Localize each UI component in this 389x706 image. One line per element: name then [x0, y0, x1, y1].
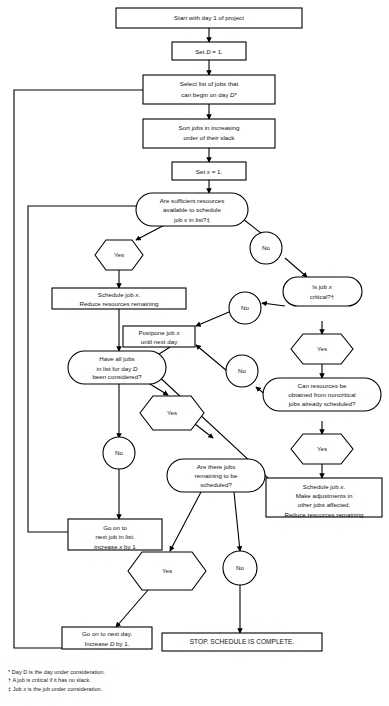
node-no-any-jobs[interactable]: No	[223, 551, 257, 585]
node-can-resources-line2: obtained from noncritical	[288, 391, 355, 398]
node-no-any-jobs-label: No	[236, 564, 244, 571]
node-have-all-jobs[interactable]: Have all jobs in list for day D been con…	[68, 351, 166, 384]
node-can-resources[interactable]: Can resources be obtained from noncritic…	[263, 378, 381, 411]
node-yes-can-resources[interactable]: Yes	[291, 434, 353, 464]
node-can-resources-line3: jobs already scheduled?	[288, 400, 356, 407]
node-sufficient-line2: available to schedule	[163, 206, 221, 213]
footnote-critical-post: if it has no slack.	[48, 677, 91, 683]
footnote-job-x: ‡ Job x is the job under consideration.	[8, 685, 258, 693]
node-next-job[interactable]: Go on to next job in list. increase x by…	[68, 519, 162, 550]
node-yes-sufficient[interactable]: Yes	[95, 240, 143, 270]
footnote-critical: † A job is critical if it has no slack.	[8, 676, 258, 684]
node-is-critical-line2: critical?†	[310, 293, 335, 300]
edge-isCritical-to-no2	[262, 303, 285, 306]
footnote-critical-ital: critical	[32, 677, 48, 683]
node-schedule-job[interactable]: Schedule job x. Reduce resources remaini…	[52, 288, 186, 309]
node-postpone-line2: until next day	[141, 338, 178, 345]
node-select-list-line1: Select list of jobs that	[180, 80, 239, 87]
node-no-sufficient[interactable]: No	[250, 232, 282, 264]
node-no-have-all[interactable]: No	[103, 437, 135, 469]
node-next-day-line2: Increase D by 1.	[84, 639, 129, 646]
node-set-d-label: Set D = 1.	[195, 47, 223, 54]
node-yes-critical[interactable]: Yes	[291, 334, 353, 364]
node-set-d[interactable]: Set D = 1.	[172, 42, 246, 60]
node-no-have-all-label: No	[115, 449, 123, 456]
node-yes-have-all-label: Yes	[167, 409, 177, 416]
footnote-marker-asterisk: *	[8, 669, 10, 675]
footnote-day-d-text: Day D is the day under consideration.	[12, 669, 105, 675]
node-set-x-label: Set x = 1.	[196, 167, 223, 174]
node-next-day[interactable]: Go on to next day. Increase D by 1.	[62, 627, 152, 649]
node-set-x[interactable]: Set x = 1.	[172, 162, 246, 180]
node-is-critical[interactable]: Is job x critical?†	[283, 277, 362, 306]
node-yes-can-resources-label: Yes	[317, 445, 327, 452]
footnote-job-x-pre: Job	[13, 686, 24, 692]
node-any-jobs-line2: remaining to be	[195, 472, 238, 479]
edge-no2-to-postpone	[196, 312, 229, 326]
footnote-critical-pre: A job is	[12, 677, 32, 683]
edge-anyJobs-to-no5	[234, 492, 240, 551]
edge-yes5-to-nextDay	[116, 590, 148, 627]
node-start[interactable]: Start with day 1 of project	[116, 8, 302, 28]
footnote-marker-dagger: †	[8, 677, 11, 683]
node-next-day-line1: Go on to next day.	[82, 630, 132, 637]
footnotes: * Day D is the day under consideration. …	[8, 668, 258, 693]
node-schedule-adjust-line3: other jobs affected.	[298, 501, 351, 508]
node-yes-sufficient-label: Yes	[114, 251, 124, 258]
node-any-jobs-line3: scheduled?	[200, 481, 232, 488]
node-postpone-line1: Postpone job x	[139, 328, 181, 335]
node-is-critical-line1: Is job x	[312, 283, 333, 290]
node-schedule-adjust-line2: Make adjustments in	[296, 492, 353, 499]
node-stop-label: STOP. SCHEDULE IS COMPLETE.	[190, 638, 295, 645]
node-schedule-adjust-line1: Schedule job x.	[303, 482, 346, 489]
node-yes-any-jobs[interactable]: Yes	[128, 552, 206, 590]
node-sufficient-line3: job x in list?‡	[173, 215, 210, 222]
node-next-job-line2: next job in list.	[95, 533, 134, 540]
node-schedule-job-line2: Reduce resources remaining	[79, 300, 159, 307]
node-postpone-job[interactable]: Postpone job x until next day	[123, 326, 195, 347]
node-any-jobs-remaining[interactable]: Are there jobs remaining to be scheduled…	[167, 459, 265, 492]
node-any-jobs-line1: Are there jobs	[197, 463, 236, 470]
node-have-all-line1: Have all jobs	[99, 355, 134, 362]
node-schedule-job-line1: Schedule job x.	[98, 290, 141, 297]
node-stop[interactable]: STOP. SCHEDULE IS COMPLETE.	[162, 633, 322, 651]
footnote-job-x-post: is the job under consideration.	[26, 686, 102, 692]
node-no-critical[interactable]: No	[229, 292, 261, 324]
node-no-sufficient-label: No	[262, 244, 270, 251]
edge-yes4-to-anyJobs	[195, 424, 213, 438]
node-sort-jobs-line1: Sort jobs in increasing	[179, 124, 240, 131]
node-no-can-resources-label: No	[238, 367, 246, 374]
node-can-resources-line1: Can resources be	[298, 382, 347, 389]
node-sufficient-resources[interactable]: Are sufficient resources available to sc…	[136, 193, 248, 226]
node-yes-any-jobs-label: Yes	[162, 567, 172, 574]
node-no-can-resources[interactable]: No	[226, 355, 258, 387]
flowchart-svg: Start with day 1 of project Set D = 1. S…	[0, 0, 389, 706]
node-next-job-line3: increase x by 1	[94, 542, 136, 549]
node-start-label: Start with day 1 of project	[174, 14, 244, 21]
node-schedule-adjust-line4: Reduce resources remaining	[284, 511, 364, 518]
node-next-job-line1: Go on to	[103, 524, 127, 531]
node-no-critical-label: No	[241, 304, 249, 311]
node-sort-jobs-line2: order of their slack	[184, 134, 236, 141]
footnote-marker-double-dagger: ‡	[8, 686, 11, 692]
node-have-all-line3: been considered?	[92, 373, 142, 380]
node-sufficient-line1: Are sufficient resources	[160, 197, 225, 204]
footnote-day-d: * Day D is the day under consideration.	[8, 668, 258, 676]
node-yes-critical-label: Yes	[317, 345, 327, 352]
node-select-list-line2: can begin on day D*	[181, 90, 237, 97]
node-schedule-adjust[interactable]: Schedule job x. Make adjustments in othe…	[266, 478, 382, 518]
node-select-list[interactable]: Select list of jobs that can begin on da…	[143, 75, 275, 104]
flowchart-canvas: Start with day 1 of project Set D = 1. S…	[0, 0, 389, 706]
node-yes-have-all[interactable]: Yes	[140, 396, 204, 430]
node-sort-jobs[interactable]: Sort jobs in increasing order of their s…	[143, 119, 275, 148]
edge-anyJobs-to-yes5	[170, 492, 201, 551]
node-have-all-line2: in list for day D	[97, 364, 138, 371]
edge-no1-to-isCritical	[285, 258, 307, 277]
